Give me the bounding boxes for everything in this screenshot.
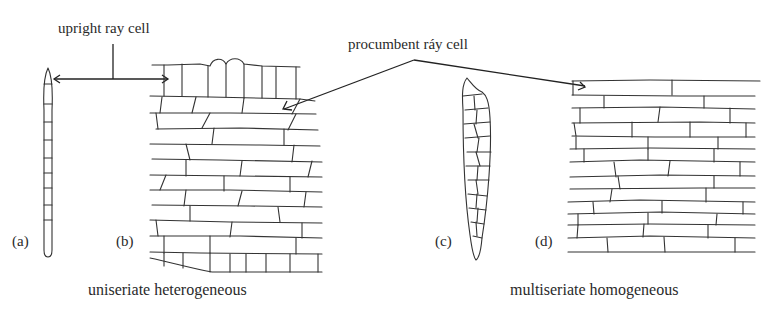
figure-b-heterogeneous-ray bbox=[150, 59, 322, 272]
figure-c-multiseriate-ray bbox=[462, 78, 491, 260]
ray-cell-diagram bbox=[0, 0, 784, 311]
figure-a-uniseriate-ray bbox=[44, 68, 53, 257]
figure-d-homogeneous-ray bbox=[568, 80, 760, 252]
upright-ray-cell-pointer bbox=[54, 44, 168, 83]
procumbent-ray-cell-pointer bbox=[283, 60, 585, 110]
